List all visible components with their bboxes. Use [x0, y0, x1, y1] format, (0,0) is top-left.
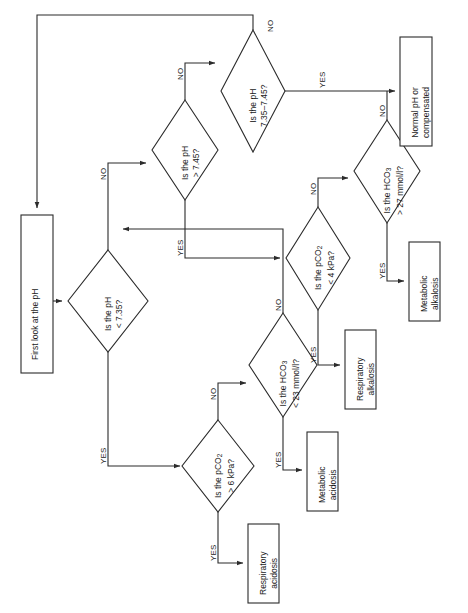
node-hco3-low-diamond — [249, 313, 317, 417]
node-normal-or-compensated-box — [400, 37, 432, 146]
edge-pco2low-yes-to-respalk — [318, 310, 340, 365]
edge-phnormal-no-to-start — [37, 15, 253, 208]
flowchart-canvas: First look at the pH Is the pH < 7.35? I… — [0, 0, 468, 613]
edge-pco2high-no-to-hco3low — [218, 383, 246, 420]
node-respiratory-alkalosis-box — [345, 330, 376, 409]
node-ph-high-diamond — [152, 100, 218, 200]
node-ph-low-diamond — [68, 250, 148, 352]
edge-pco2high-yes-to-respacid — [218, 512, 243, 563]
flowchart-graphics — [0, 0, 468, 613]
edge-pco2low-no-to-hco3high — [318, 178, 348, 207]
edge-phlow-no-to-phhigh — [108, 163, 146, 250]
edge-phhigh-no-to-phnormal — [185, 63, 215, 100]
node-metabolic-alkalosis-box — [409, 242, 440, 321]
edge-hco3high-yes-to-metalk — [387, 223, 404, 281]
node-respiratory-acidosis-box — [248, 524, 279, 603]
node-start-box — [21, 215, 53, 373]
node-metabolic-acidosis-box — [307, 432, 338, 511]
edge-hco3low-yes-to-metacid — [283, 417, 302, 470]
edge-phlow-yes-to-pco2high — [108, 352, 180, 466]
node-pco2-high-diamond — [182, 420, 254, 512]
node-ph-normal-diamond — [221, 30, 285, 152]
node-pco2-low-diamond — [286, 207, 350, 310]
